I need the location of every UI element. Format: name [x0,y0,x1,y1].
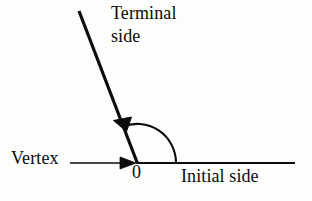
terminal-side-label-line1: Terminal [111,3,177,23]
vertex-label: Vertex [11,149,59,167]
terminal-side-label: Terminal side [111,4,177,46]
origin-label: 0 [132,163,141,181]
angle-arc-arrowhead-icon [114,117,132,132]
terminal-side-label-line2: side [111,27,177,45]
initial-side-label: Initial side [181,167,259,185]
angle-diagram-figure: Terminal side Vertex 0 Initial side [0,0,312,201]
